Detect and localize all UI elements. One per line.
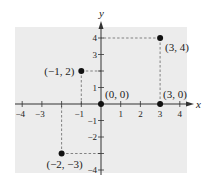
data-point (157, 35, 163, 41)
y-tick-label: 4 (93, 33, 98, 43)
x-tick-label: −1 (75, 109, 85, 119)
x-tick-label: 3 (158, 109, 163, 119)
x-axis-arrow-icon (186, 102, 194, 107)
y-axis-label: y (98, 7, 104, 19)
x-tick-label: 1 (118, 109, 123, 119)
x-tick-label: 2 (138, 109, 143, 119)
y-tick-label: −1 (87, 116, 97, 126)
y-axis-arrow-icon (99, 21, 104, 29)
y-tick-label: 3 (93, 50, 98, 60)
y-tick-label: −4 (87, 165, 97, 175)
x-axis-label: x (195, 98, 201, 110)
y-tick-label: 1 (93, 83, 98, 93)
data-point (98, 101, 104, 107)
point-label: (−2, −3) (46, 158, 83, 171)
x-tick-label: 4 (178, 109, 183, 119)
point-label: (3, 4) (165, 41, 189, 54)
x-tick-label: −3 (35, 109, 45, 119)
point-label: (0, 0) (105, 88, 129, 101)
data-point (78, 68, 84, 74)
point-label: (−1, 2) (44, 65, 74, 78)
point-label: (3, 0) (163, 88, 187, 101)
x-tick-label: −4 (15, 109, 25, 119)
coordinate-plane-chart: x y −4−3−11234−4−2−1134 (3, 4)(−1, 2)(0,… (0, 0, 218, 179)
data-point (59, 151, 65, 157)
y-tick-label: −2 (87, 132, 97, 142)
data-point (157, 101, 163, 107)
